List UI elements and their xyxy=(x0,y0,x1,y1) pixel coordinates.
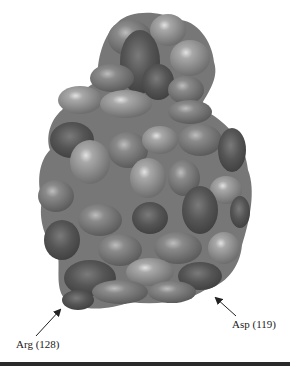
label-asp-119: Asp (119) xyxy=(232,318,276,330)
arrow-arg-128 xyxy=(36,310,60,336)
figure-canvas: Arg (128) Asp (119) xyxy=(0,0,290,366)
protein-surface-model xyxy=(0,0,290,366)
bottom-rule xyxy=(0,362,290,366)
arrow-asp-119 xyxy=(216,298,236,316)
label-arg-128: Arg (128) xyxy=(16,338,59,350)
